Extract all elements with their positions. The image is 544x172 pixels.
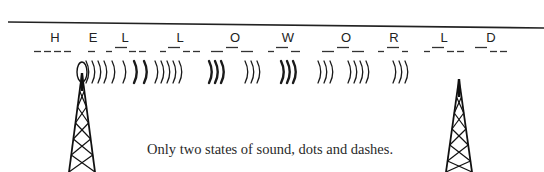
morse-letter: L <box>176 31 183 44</box>
sound-wave-arc <box>155 61 158 83</box>
caption: Only two states of sound, dots and dashe… <box>147 141 393 158</box>
morse-letter: R <box>389 31 398 44</box>
morse-letter: D <box>486 31 495 44</box>
sound-wave-arc <box>167 61 170 83</box>
sound-wave-arc <box>215 61 218 83</box>
sound-wave-arc <box>98 61 101 83</box>
sound-wave-arc <box>251 61 254 83</box>
sound-wave-arc <box>161 61 164 83</box>
sound-wave-arc <box>324 61 327 83</box>
sound-wave-arc <box>287 61 290 83</box>
sound-wave-arc <box>173 61 176 83</box>
morse-letter: L <box>440 31 447 44</box>
sound-wave-arc <box>354 61 357 83</box>
sound-wave-arc <box>221 61 224 83</box>
sound-wave-arc <box>281 61 284 83</box>
sound-wave-arc <box>92 61 95 83</box>
sound-wave-arc <box>330 61 333 83</box>
sound-wave-arc <box>257 61 260 83</box>
sound-wave-arc <box>366 61 369 83</box>
morse-letter: H <box>50 31 59 44</box>
sound-wave-arc <box>360 61 363 83</box>
sound-wave-arc <box>348 61 351 83</box>
sound-wave-arc <box>318 61 321 83</box>
morse-letter: L <box>121 31 128 44</box>
receiver-tower-icon <box>446 79 472 172</box>
sound-wave-arc <box>405 61 408 83</box>
sound-wave-arc <box>393 61 396 83</box>
morse-letter: O <box>341 31 351 44</box>
top-rule <box>8 22 544 28</box>
sound-wave-arc <box>134 61 137 83</box>
sound-wave-arc <box>209 61 212 83</box>
morse-letter: O <box>230 31 240 44</box>
sound-wave-arc <box>144 61 147 83</box>
sound-wave-arc <box>293 61 296 83</box>
morse-letter: W <box>282 31 294 44</box>
sound-wave-arc <box>399 61 402 83</box>
sound-wave-arc <box>112 61 115 83</box>
sound-wave-arc <box>123 61 126 83</box>
sound-wave-arc <box>104 61 107 83</box>
sound-wave-arc <box>179 61 182 83</box>
morse-diagram: HELLOWORLD Only two states of sound, dot… <box>0 0 544 172</box>
transmitter-tower-icon <box>69 62 95 172</box>
sound-wave-arc <box>245 61 248 83</box>
morse-letter: E <box>89 31 98 44</box>
